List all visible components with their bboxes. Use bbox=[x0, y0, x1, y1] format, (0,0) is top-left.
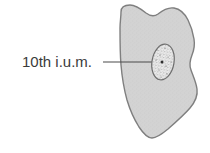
segment-label: 10th i.u.m. bbox=[22, 53, 92, 70]
figure-container: 10th i.u.m. bbox=[0, 0, 210, 153]
anatomical-diagram: 10th i.u.m. bbox=[0, 0, 210, 153]
nucleolus bbox=[161, 61, 164, 64]
